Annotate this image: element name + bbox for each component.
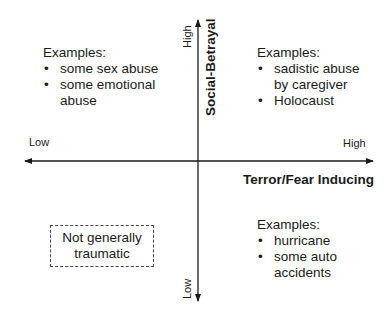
examples-list: • some sex abuse • some emotional abuse [43, 61, 158, 109]
bullet-icon: • [258, 233, 263, 249]
list-item: • some auto accidents [257, 249, 337, 281]
quadrant-top-right: Examples: • sadistic abuse by caregiver … [257, 45, 360, 109]
list-item: • Holocaust [257, 93, 360, 109]
list-item: • some emotional abuse [43, 77, 158, 109]
y-axis-high-label: High [181, 25, 193, 48]
quadrant-top-left: Examples: • some sex abuse • some emotio… [43, 45, 158, 109]
examples-heading: Examples: [257, 217, 337, 233]
list-item: • sadistic abuse by caregiver [257, 61, 360, 93]
x-axis-low-label: Low [29, 136, 49, 148]
x-axis-high-label: High [343, 137, 366, 149]
list-item: • hurricane [257, 233, 337, 249]
bullet-icon: • [258, 249, 263, 265]
y-axis-title: Social-Betrayal [203, 18, 218, 116]
x-axis-title: Terror/Fear Inducing [243, 172, 374, 187]
bullet-icon: • [44, 77, 49, 93]
bullet-icon: • [44, 61, 49, 77]
examples-heading: Examples: [257, 45, 360, 61]
quadrant-bottom-right: Examples: • hurricane • some auto accide… [257, 217, 337, 281]
bullet-icon: • [258, 61, 263, 77]
y-axis-low-label: Low [181, 279, 193, 299]
examples-list: • hurricane • some auto accidents [257, 233, 337, 281]
examples-heading: Examples: [43, 45, 158, 61]
list-item: • some sex abuse [43, 61, 158, 77]
examples-list: • sadistic abuse by caregiver • Holocaus… [257, 61, 360, 109]
not-traumatic-box: Not generally traumatic [50, 225, 154, 267]
bullet-icon: • [258, 93, 263, 109]
